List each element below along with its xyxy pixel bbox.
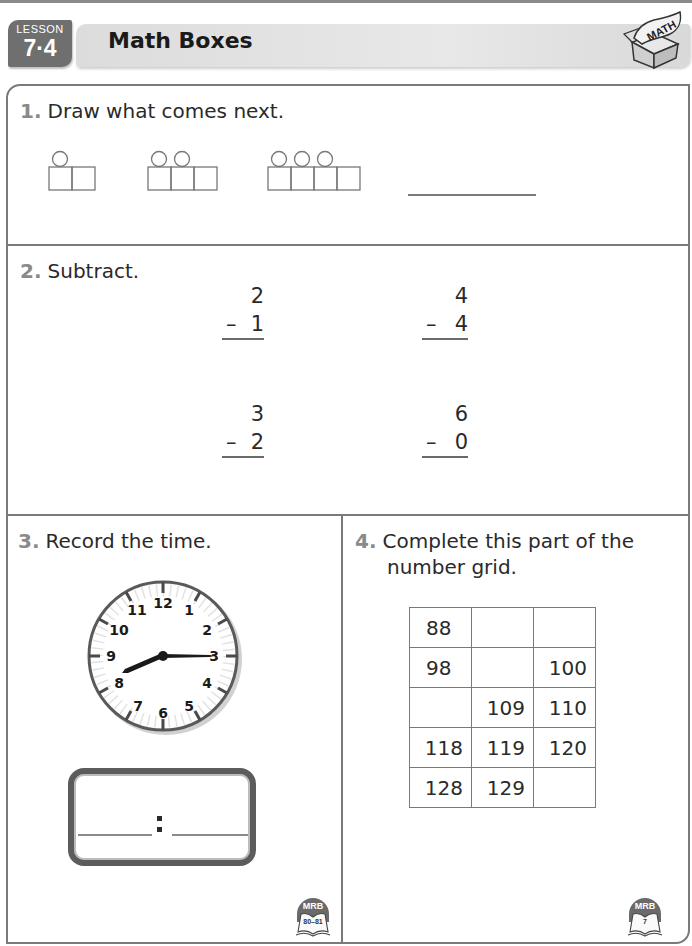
subtraction-problem-d[interactable]: 6 –0 — [422, 400, 468, 458]
math-box-logo-icon: MATH — [612, 8, 692, 70]
time-colon — [157, 816, 163, 836]
mrb-pages: 7 — [626, 918, 664, 925]
svg-text:4: 4 — [202, 675, 212, 691]
problem-number: 1. — [20, 99, 42, 123]
svg-text:2: 2 — [202, 622, 212, 638]
grid-cell: 98 — [410, 648, 472, 688]
grid-cell: 118 — [410, 728, 472, 768]
svg-text:12: 12 — [153, 595, 172, 611]
pattern-step-1 — [48, 150, 98, 192]
problem-number: 4. — [355, 529, 377, 553]
number-grid: 88 98 100 109 110 118 119 120 128 129 — [409, 607, 596, 808]
svg-text:11: 11 — [127, 602, 146, 618]
lesson-label: LESSON — [8, 23, 72, 35]
grid-cell: 110 — [534, 688, 596, 728]
problem-4-prompt-line2: number grid. — [387, 554, 517, 580]
grid-row: 88 — [410, 608, 596, 648]
grid-cell: 120 — [534, 728, 596, 768]
grid-row: 98 100 — [410, 648, 596, 688]
problem-1-prompt: 1.Draw what comes next. — [20, 98, 284, 124]
svg-text:6: 6 — [158, 705, 168, 721]
subtraction-problem-c[interactable]: 3 –2 — [222, 400, 264, 458]
mrb-reference-icon[interactable]: MRB 7 — [626, 892, 664, 938]
svg-text:7: 7 — [133, 698, 143, 714]
hours-blank[interactable] — [78, 834, 152, 836]
lesson-badge: LESSON 7·4 — [8, 20, 72, 67]
time-answer-box — [68, 768, 256, 866]
svg-text:8: 8 — [114, 675, 124, 691]
subtraction-problem-b[interactable]: 4 –4 — [422, 282, 468, 340]
grid-cell: 88 — [410, 608, 472, 648]
pattern-step-2 — [147, 150, 221, 192]
mrb-reference-icon[interactable]: MRB 80–81 — [294, 892, 332, 938]
minutes-blank[interactable] — [172, 834, 248, 836]
grid-row: 128 129 — [410, 768, 596, 808]
svg-text:MRB: MRB — [635, 901, 656, 911]
svg-text:5: 5 — [184, 698, 194, 714]
grid-cell-blank[interactable] — [534, 768, 596, 808]
top-rule — [0, 0, 692, 3]
problem-2-box: 2.Subtract. — [6, 246, 690, 516]
mrb-pages: 80–81 — [294, 918, 332, 925]
grid-cell-blank[interactable] — [472, 648, 534, 688]
grid-cell-blank[interactable] — [410, 688, 472, 728]
svg-text:MRB: MRB — [303, 901, 324, 911]
pattern-step-3 — [267, 150, 365, 192]
grid-row: 109 110 — [410, 688, 596, 728]
problem-4-prompt: 4.Complete this part of the — [355, 528, 634, 554]
grid-cell: 100 — [534, 648, 596, 688]
problem-number: 3. — [18, 529, 40, 553]
grid-cell-blank[interactable] — [534, 608, 596, 648]
svg-text:1: 1 — [184, 602, 194, 618]
problem-number: 2. — [20, 259, 42, 283]
page-title: Math Boxes — [108, 28, 253, 53]
lesson-number: 7·4 — [8, 35, 72, 61]
draw-answer-blank[interactable] — [408, 194, 536, 196]
problem-2-prompt: 2.Subtract. — [20, 258, 139, 284]
grid-cell: 128 — [410, 768, 472, 808]
grid-cell: 109 — [472, 688, 534, 728]
grid-cell-blank[interactable] — [472, 608, 534, 648]
svg-text:9: 9 — [106, 648, 116, 664]
analog-clock: 12 1 2 3 4 5 6 7 8 9 10 11 — [84, 577, 242, 735]
problem-3-prompt: 3.Record the time. — [18, 528, 212, 554]
problem-1-box: 1.Draw what comes next. — [6, 84, 690, 246]
svg-text:10: 10 — [109, 622, 129, 638]
subtraction-problem-a[interactable]: 2 –1 — [222, 282, 264, 340]
grid-cell: 119 — [472, 728, 534, 768]
grid-row: 118 119 120 — [410, 728, 596, 768]
grid-cell: 129 — [472, 768, 534, 808]
